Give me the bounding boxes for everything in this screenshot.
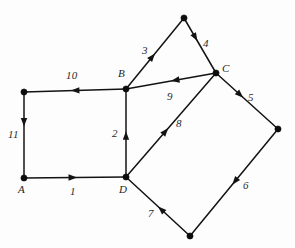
vertex-dot [275, 126, 281, 132]
vertex-dot [187, 233, 193, 239]
arrowhead-icon [190, 32, 197, 41]
edge-weight-label: 5 [248, 92, 254, 103]
edge-weight-label: 4 [203, 38, 209, 49]
vertices-group [21, 15, 281, 239]
vertex-dot [123, 86, 129, 92]
vertex-label-c: C [222, 63, 229, 74]
edge-weight-label: 6 [243, 180, 249, 191]
vertex-label-d: D [119, 184, 127, 195]
edge-weight-label: 1 [70, 186, 76, 197]
arrowhead-icon [171, 76, 180, 82]
edge-weight-label: 11 [8, 129, 19, 140]
vertex-dot [123, 174, 129, 180]
arrowheads-group [21, 32, 243, 214]
arrowhead-icon [71, 87, 80, 93]
vertex-dot [213, 70, 219, 76]
graph-diagram: 1234567891011 ABDC [0, 0, 295, 248]
vertex-dot [181, 15, 187, 21]
edge-line [184, 18, 216, 73]
vertex-label-a: A [18, 184, 25, 195]
edge-weight-label: 8 [176, 118, 182, 129]
vertex-dot [21, 89, 27, 95]
edges-group [24, 18, 278, 236]
edge-weight-label: 3 [142, 45, 148, 56]
edge-weight-label: 7 [148, 208, 154, 219]
edge-line [126, 73, 216, 177]
edge-weight-label: 2 [112, 128, 118, 139]
edge-weight-label: 9 [167, 91, 173, 102]
vertex-dot [21, 175, 27, 181]
arrowhead-icon [69, 174, 78, 180]
vertex-label-b: B [118, 68, 125, 79]
arrowhead-icon [21, 118, 27, 127]
edge-weight-label: 10 [66, 70, 77, 81]
arrowhead-icon [123, 131, 129, 140]
edge-line [216, 73, 278, 129]
